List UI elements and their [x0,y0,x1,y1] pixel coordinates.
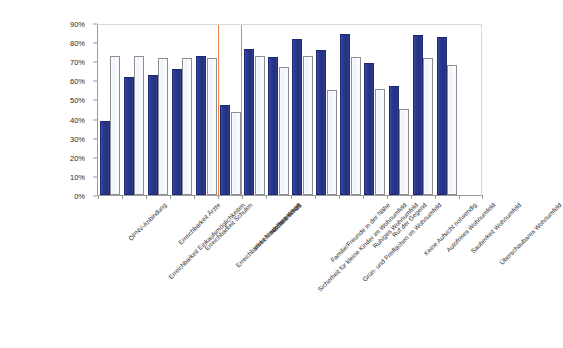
x-axis-tick-mark [291,195,292,199]
x-axis-tick-mark [266,195,267,199]
y-axis-tick-label: 0% [74,192,85,201]
bar-series-2 [279,67,289,195]
y-axis-tick-label: 40% [70,115,85,124]
y-axis-tick-label: 10% [70,172,85,181]
x-axis-tick-mark [122,195,123,199]
x-axis-category-label: Erreichbarkeit Schulen [204,202,254,252]
y-axis-tick-label: 30% [70,134,85,143]
bar-series-1 [364,63,374,195]
x-axis-category-label: Erreichbarkeit Kinderbetreuung [235,202,302,269]
bar-group [170,25,194,195]
x-axis-tick-mark [459,195,460,199]
bar-series-1 [100,121,110,195]
bar-group [315,25,339,195]
bar-series-1 [292,39,302,195]
bar-series-2 [423,58,433,195]
bar-series-1 [244,49,254,195]
x-axis-tick-mark [411,195,412,199]
bar-series-1 [413,35,423,195]
bar-series-2 [351,57,361,195]
x-axis-tick-mark [170,195,171,199]
bar-series-2 [399,109,409,195]
bar-group [122,25,146,195]
x-axis-category-label: Ruhiges Wohnumfeld [372,202,420,250]
y-axis: 90%80%70%60%50%40%30%20%10%0% [0,24,93,196]
bar-series-2 [303,56,313,195]
x-axis-tick-mark [387,195,388,199]
x-axis-category-label: Sauberkeit Wohnumfeld [470,202,523,255]
y-axis-tick-label: 70% [70,58,85,67]
bar-series-2 [134,56,144,195]
plot-area [97,24,482,196]
orange-marker-left [218,25,219,195]
bar-series-1 [148,75,158,195]
bar-group [387,25,411,195]
x-axis-tick-mark [363,195,364,199]
bar-series-1 [316,50,326,195]
bar-series-1 [172,69,182,195]
bar-group [218,25,242,195]
x-axis-tick-mark [339,195,340,199]
y-axis-tick-label: 60% [70,77,85,86]
bar-series-2 [110,56,120,195]
x-axis-category-label: Familie/Freunde in der Nähe [329,202,391,264]
bar-group [363,25,387,195]
bar-series-2 [447,65,457,195]
bar-group [339,25,363,195]
bar-series-2 [182,58,192,195]
x-axis-tick-mark [482,195,483,199]
orange-marker-right [241,25,242,195]
bar-group [411,25,435,195]
x-axis-tick-mark [194,195,195,199]
x-axis-category-label: Nachbarschaft [269,202,303,236]
x-axis-tick-mark [315,195,316,199]
bar-series-2 [158,58,168,195]
x-axis-tick-mark [98,195,99,199]
x-axis-category-label: ÖPNV-Anbindung [128,202,168,242]
x-axis-tick-mark [435,195,436,199]
x-axis-category-label: Ruf der Gegend [391,202,428,239]
bar-series-2 [231,112,241,195]
bar-series-2 [255,56,265,195]
bar-group [98,25,122,195]
bar-series-1 [124,77,134,195]
x-axis-category-label: Erreichbarkeit Ärzte [178,202,222,246]
bar-series-2 [375,89,385,195]
bar-group [266,25,290,195]
bar-group [435,25,459,195]
x-axis-tick-mark [218,195,219,199]
bar-group [194,25,218,195]
y-axis-tick-label: 50% [70,96,85,105]
bar-series-1 [268,57,278,195]
x-axis-category-label: Grün- und Freiflächen im Wohnumfeld [361,202,442,283]
x-axis-category-label: Verkehrssichere Wege [252,202,302,252]
bar-series-1 [437,37,447,195]
bar-series-2 [207,58,217,195]
y-axis-tick-label: 20% [70,153,85,162]
x-axis-tick-mark [242,195,243,199]
bar-series-1 [340,34,350,195]
x-axis-category-label: Sicherheit für kleine Kinder im Wohnumfe… [317,202,408,293]
bar-group [291,25,315,195]
x-axis-tick-mark [146,195,147,199]
bar-group [459,25,483,195]
x-axis-category-label: Überschaubares Wohnumfeld [499,202,563,266]
bar-series-1 [389,86,399,195]
bar-group [242,25,266,195]
y-axis-tick-label: 90% [70,20,85,29]
bar-series-2 [327,90,337,195]
bar-series-1 [220,105,230,195]
bar-series-1 [196,56,206,195]
x-axis-category-label: Autofreies Wohnumfeld [445,202,496,253]
y-axis-tick-label: 80% [70,39,85,48]
bar-group [146,25,170,195]
x-axis-category-label: Erreichbarkeit Einkaufsmöglichkeiten [168,202,247,281]
x-axis-category-label: Keine Aufsicht notwendig [423,202,478,257]
